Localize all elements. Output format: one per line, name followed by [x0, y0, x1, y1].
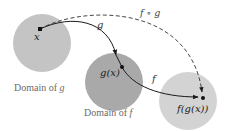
domain-of-f-region — [85, 53, 143, 111]
caption-domain-of-f: Domain of f — [84, 107, 134, 118]
label-arrow-composite: f ∘ g — [139, 7, 160, 18]
label-arrow-g: g — [97, 19, 103, 30]
point-gx — [120, 65, 124, 69]
composition-diagram: x g(x) f(g(x)) g f f ∘ g Domain of g Dom… — [0, 0, 226, 131]
range-region — [159, 72, 217, 130]
label-arrow-f: f — [151, 73, 158, 84]
label-fgx: f(g(x)) — [176, 103, 208, 114]
domain-of-g-region — [13, 14, 71, 72]
point-fgx — [201, 96, 205, 100]
label-gx: g(x) — [100, 67, 120, 78]
label-x: x — [34, 31, 40, 42]
caption-domain-of-g: Domain of g — [14, 82, 65, 93]
